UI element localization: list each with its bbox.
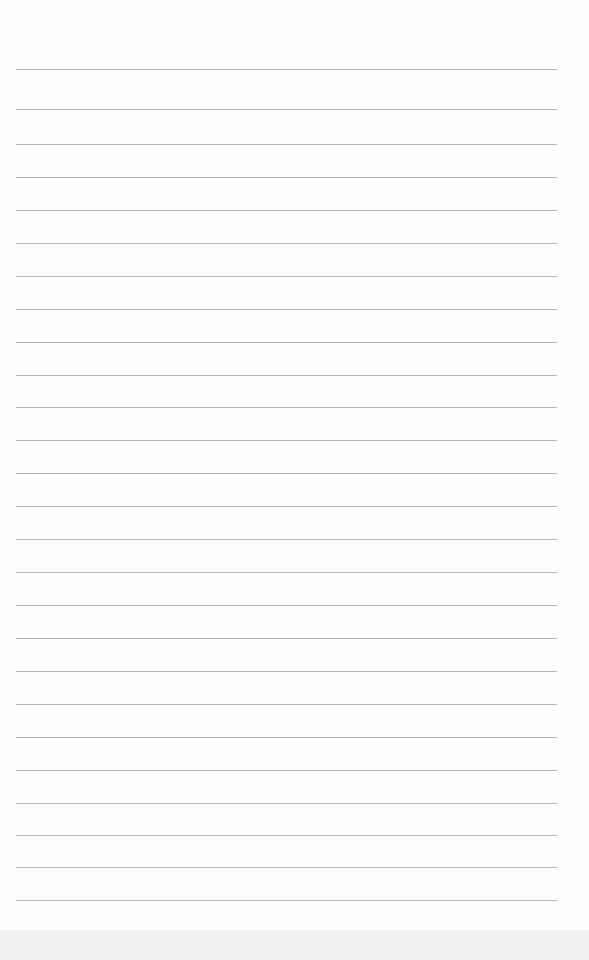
ruled-line bbox=[16, 803, 557, 804]
ruled-line bbox=[16, 737, 557, 738]
lined-paper bbox=[0, 0, 589, 960]
ruled-line bbox=[16, 69, 557, 70]
ruled-line bbox=[16, 177, 557, 178]
ruled-line bbox=[16, 638, 557, 639]
ruled-line bbox=[16, 770, 557, 771]
ruled-line bbox=[16, 109, 557, 110]
ruled-line bbox=[16, 539, 557, 540]
ruled-line bbox=[16, 210, 557, 211]
ruled-line bbox=[16, 473, 557, 474]
ruled-line bbox=[16, 835, 557, 836]
ruled-line bbox=[16, 375, 557, 376]
ruled-line bbox=[16, 407, 557, 408]
ruled-line bbox=[16, 309, 557, 310]
ruled-line bbox=[16, 900, 557, 901]
ruled-line bbox=[16, 506, 557, 507]
ruled-line bbox=[16, 605, 557, 606]
ruled-line bbox=[16, 440, 557, 441]
ruled-line bbox=[16, 342, 557, 343]
ruled-line bbox=[16, 276, 557, 277]
ruled-line bbox=[16, 144, 557, 145]
ruled-line bbox=[16, 243, 557, 244]
ruled-line bbox=[16, 671, 557, 672]
ruled-line bbox=[16, 867, 557, 868]
ruled-line bbox=[16, 704, 557, 705]
ruled-line bbox=[16, 572, 557, 573]
bottom-shadow bbox=[0, 930, 589, 960]
